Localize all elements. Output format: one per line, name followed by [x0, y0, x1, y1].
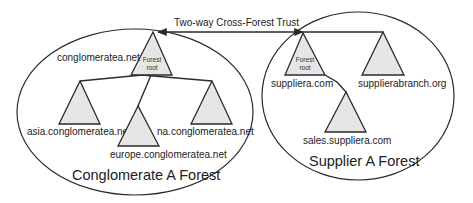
conglomerate-forest-title: Conglomerate A Forest — [72, 167, 220, 183]
sales-domain-triangle — [325, 92, 366, 132]
conglomerate-tree-links — [80, 75, 212, 106]
supplierabranch-domain-label: supplierabranch.org — [358, 78, 446, 89]
na-domain-triangle — [191, 81, 232, 124]
trust-label: Two-way Cross-Forest Trust — [174, 17, 299, 28]
forest-root-badge: root — [146, 64, 157, 71]
na-domain-label: na.conglomeratea.net — [157, 126, 254, 137]
conglomerate-root-domain: conglomeratea.net — [57, 52, 140, 63]
supplier-root-domain: suppliera.com — [271, 78, 333, 89]
forest-trust-diagram: Two-way Cross-Forest Trust Forest root c… — [0, 0, 473, 203]
europe-domain-label: europe.conglomeratea.net — [110, 149, 227, 160]
forest-root-badge: root — [299, 64, 310, 71]
forest-root-badge: Forest — [296, 56, 315, 63]
supplierabranch-triangle — [362, 32, 404, 75]
sales-domain-label: sales.suppliera.com — [303, 135, 391, 146]
forest-root-badge: Forest — [143, 56, 162, 63]
asia-domain-label: asia.conglomeratea.net — [27, 126, 131, 137]
supplier-forest-title: Supplier A Forest — [309, 153, 419, 169]
asia-domain-triangle — [59, 81, 100, 124]
